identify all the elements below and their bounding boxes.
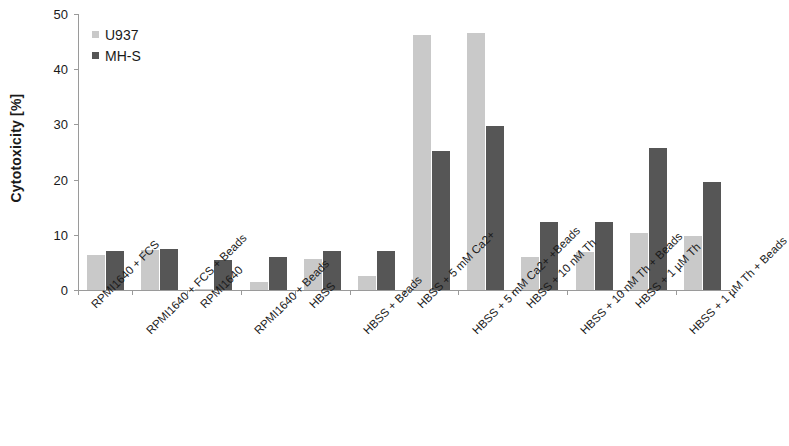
bar-mhs <box>377 251 395 290</box>
bar-mhs <box>269 257 287 290</box>
y-tick-label: 40 <box>38 62 68 77</box>
x-tick-mark <box>78 291 79 295</box>
legend-swatch-icon-u937 <box>92 31 99 38</box>
x-tick-mark <box>350 291 351 295</box>
bar-mhs <box>160 249 178 290</box>
bar-mhs <box>595 222 613 290</box>
legend-item-u937: U937 <box>92 24 141 45</box>
x-tick-mark <box>241 291 242 295</box>
y-tick-label: 50 <box>38 7 68 22</box>
bar-u937 <box>250 282 268 290</box>
x-tick-mark <box>132 291 133 295</box>
y-tick-label: 20 <box>38 172 68 187</box>
legend-label-u937: U937 <box>105 27 138 43</box>
y-axis-title: Cytotoxicity [%] <box>8 48 24 248</box>
x-tick-mark <box>567 291 568 295</box>
y-axis-line <box>78 14 79 290</box>
y-tick-label: 30 <box>38 117 68 132</box>
legend-label-mhs: MH-S <box>105 48 141 64</box>
x-tick-mark <box>458 291 459 295</box>
legend-item-mhs: MH-S <box>92 45 141 66</box>
legend-swatch-icon-mhs <box>92 52 99 59</box>
x-tick-mark <box>676 291 677 295</box>
y-tick-label: 10 <box>38 227 68 242</box>
bar-u937 <box>413 35 431 290</box>
bar-u937 <box>87 255 105 290</box>
y-tick-label: 0 <box>38 283 68 298</box>
bar-mhs <box>486 126 504 290</box>
chart-legend: U937 MH-S <box>92 24 141 66</box>
bar-u937 <box>358 276 376 290</box>
bar-mhs <box>703 182 721 290</box>
